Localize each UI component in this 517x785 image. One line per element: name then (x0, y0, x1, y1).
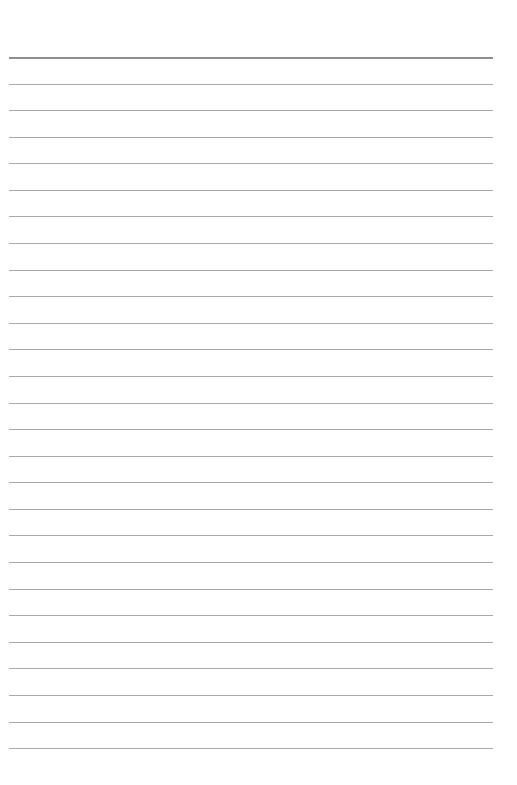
rule-line (9, 270, 493, 271)
rule-line (9, 748, 493, 749)
rule-line (9, 110, 493, 111)
rule-line (9, 403, 493, 404)
rule-line (9, 509, 493, 510)
rule-line (9, 535, 493, 536)
rule-line (9, 190, 493, 191)
lined-paper-sheet (0, 0, 517, 785)
rule-line (9, 84, 493, 85)
rule-line (9, 163, 493, 164)
header-rule-line (9, 57, 493, 59)
rule-line (9, 722, 493, 723)
rule-line (9, 349, 493, 350)
rule-line (9, 216, 493, 217)
rule-line (9, 562, 493, 563)
rule-line (9, 323, 493, 324)
rule-line (9, 589, 493, 590)
rule-line (9, 668, 493, 669)
rule-line (9, 137, 493, 138)
rule-line (9, 296, 493, 297)
rule-line (9, 642, 493, 643)
rule-line (9, 615, 493, 616)
rule-line (9, 456, 493, 457)
rule-line (9, 482, 493, 483)
rule-line (9, 695, 493, 696)
rule-line (9, 429, 493, 430)
rule-line (9, 376, 493, 377)
rule-line (9, 243, 493, 244)
